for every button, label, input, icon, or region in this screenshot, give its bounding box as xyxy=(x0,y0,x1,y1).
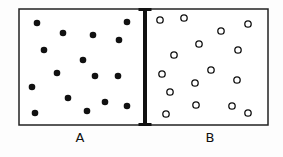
compartment-a-label: A xyxy=(76,131,85,144)
filled-particle xyxy=(80,57,87,64)
hollow-particle xyxy=(159,71,165,77)
hollow-particle xyxy=(192,80,198,86)
filled-particle xyxy=(102,99,109,106)
diffusion-diagram: A B xyxy=(0,0,283,157)
hollow-particle xyxy=(208,67,214,73)
hollow-particle xyxy=(234,77,240,83)
filled-particle xyxy=(116,37,123,44)
hollow-particle xyxy=(163,111,169,117)
diagram-canvas xyxy=(0,0,283,157)
hollow-particle xyxy=(245,110,251,116)
filled-particle xyxy=(124,19,131,26)
filled-particle xyxy=(65,95,72,102)
hollow-particle xyxy=(196,41,202,47)
hollow-particle xyxy=(157,17,163,23)
filled-particle xyxy=(54,70,61,77)
filled-particle xyxy=(115,73,122,80)
filled-particle xyxy=(32,110,39,117)
barrier-cap-top xyxy=(139,8,152,11)
hollow-particle xyxy=(245,21,251,27)
filled-particle xyxy=(124,103,131,110)
barrier-cap-bottom xyxy=(139,123,152,126)
barrier-bar xyxy=(143,9,147,125)
filled-particle xyxy=(90,32,97,39)
hollow-particle xyxy=(218,28,224,34)
filled-particle xyxy=(41,47,48,54)
hollow-particle xyxy=(229,103,235,109)
filled-particle xyxy=(34,20,41,27)
hollow-particle xyxy=(171,52,177,58)
filled-particle xyxy=(29,84,36,91)
filled-particle xyxy=(60,30,67,37)
hollow-particle xyxy=(181,15,187,21)
hollow-particle xyxy=(235,47,241,53)
hollow-particle xyxy=(167,89,173,95)
hollow-particle xyxy=(193,102,199,108)
filled-particle xyxy=(92,73,99,80)
compartment-b-label: B xyxy=(206,131,215,144)
filled-particle xyxy=(84,108,91,115)
